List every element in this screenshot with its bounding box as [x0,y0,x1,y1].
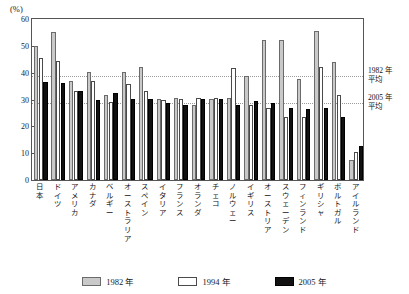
bar [244,76,248,180]
bar [231,68,235,180]
bar-group [207,19,225,180]
x-axis-label: ドイツ [53,183,62,209]
x-axis-label-char: ダ [193,209,202,218]
legend-item-y1994[interactable]: 1994 年 [178,275,230,287]
bar [69,81,73,180]
x-axis-label: オランダ [193,183,202,217]
bar [39,58,43,180]
x-axis-label: スペイン [140,183,149,217]
bar [161,100,165,181]
x-axis-label: チェコ [211,183,220,209]
x-axis-label-char: ー [105,209,114,218]
bar [87,72,91,180]
x-axis-label-char: ダ [88,200,97,209]
bar-group [277,19,295,180]
y-axis-tick-label: 20 [0,122,29,131]
bar [174,98,178,180]
bar [297,79,301,180]
reference-label-avg-2005: 2005 年平均 [368,93,392,111]
bar [337,95,341,180]
bar [144,91,148,180]
bar [201,99,205,180]
bar [359,146,363,180]
bar [354,152,358,180]
bar-group [172,19,190,180]
x-axis-label-char: ド [298,226,307,235]
y-axis-tick-mark [31,73,34,74]
x-axis-label-char: ツ [53,200,62,209]
x-axis-label: ギリシャ [316,183,325,217]
y-axis-tick-label: 50 [0,41,29,50]
legend-label: 2005 年 [299,275,327,287]
x-axis-label-char: ル [333,217,342,226]
y-axis-unit-label: (%) [10,4,23,14]
x-axis-label-char: カ [70,209,79,218]
bar-group [295,19,313,180]
y-axis-tick-mark [31,180,34,181]
y-axis-tick-label: 10 [0,149,29,158]
bar-group [155,19,173,180]
bar-group [102,19,120,180]
bar [332,62,336,180]
bar-group [347,19,365,180]
bar-group [312,19,330,180]
bar [51,32,55,180]
x-axis-label-char: ド [351,226,360,235]
x-axis-label: ノルウェー [228,183,237,226]
x-axis-label: オーストラリア [123,183,132,243]
bar-group [260,19,278,180]
bar [192,105,196,180]
bar-group [32,19,50,180]
reference-label-line1: 2005 年 [368,93,392,102]
bar [109,102,113,180]
y-axis-tick-label: 30 [0,95,29,104]
bar-group [50,19,68,180]
x-axis-label-char: ン [140,209,149,218]
bar [214,98,218,180]
chart-root: (%) 0102030405060 1982 年平均2005 年平均 日本ドイツ… [0,0,409,294]
bar-group [190,19,208,180]
reference-label-line2: 平均 [368,102,392,111]
y-axis-tick-mark [31,153,34,154]
bar [271,103,275,180]
x-axis-label: アメリカ [70,183,79,217]
bar-group [67,19,85,180]
bar [236,105,240,180]
chart-legend: 1982 年1994 年2005 年 [0,272,409,290]
x-axis-labels: 日本ドイツアメリカカナダベルギーオーストラリアスペインイタリアフランスオランダチ… [31,183,364,258]
bar [341,117,345,180]
x-axis-label-char: ン [281,226,290,235]
bar [61,83,65,180]
y-axis-tick-label: 40 [0,68,29,77]
y-axis-tick-mark [31,46,34,47]
y-axis-tick-mark [31,126,34,127]
legend-swatch-y2005 [275,277,294,286]
x-axis-label-char: ス [175,209,184,218]
bar [227,98,231,180]
y-axis-tick-mark [31,100,34,101]
plot-inner [32,19,363,180]
x-axis-label-char: ア [263,226,272,235]
bar [56,61,60,180]
bar [266,108,270,180]
bar [131,99,135,180]
legend-item-y2005[interactable]: 2005 年 [275,275,327,287]
legend-item-y1982[interactable]: 1982 年 [82,275,134,287]
bar [122,72,126,180]
y-axis-tick-label: 60 [0,15,29,24]
bar [78,91,82,180]
bar [126,84,130,180]
x-axis-label: アイルランド [351,183,360,235]
bar [179,99,183,180]
bar-group [85,19,103,180]
bar [306,109,310,180]
bar-group [242,19,260,180]
bar-group [120,19,138,180]
legend-label: 1994 年 [202,275,230,287]
bar [43,82,47,180]
x-axis-label-char: ア [158,209,167,218]
bar [183,105,187,180]
bar [74,91,78,180]
x-axis-label: ポルトガル [333,183,342,226]
y-axis-tick-label: 0 [0,176,29,185]
